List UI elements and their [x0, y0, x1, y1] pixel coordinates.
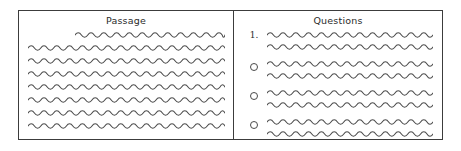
answer-option-line [267, 58, 434, 70]
question-stem-line [267, 29, 434, 41]
answer-option-marker[interactable] [241, 116, 267, 129]
answer-option-lines [267, 116, 434, 140]
passage-panel: Passage [19, 11, 234, 139]
answer-option-line [267, 116, 434, 128]
passage-panel-title: Passage [19, 11, 233, 27]
questions-panel-title: Questions [234, 11, 442, 27]
radio-circle-icon[interactable] [250, 121, 258, 129]
answer-option-line [267, 87, 434, 99]
answer-option-lines [267, 58, 434, 82]
answer-option[interactable] [241, 58, 434, 82]
passage-line [28, 55, 224, 68]
answer-option[interactable] [241, 87, 434, 111]
passage-line [28, 107, 224, 120]
passage-line [75, 29, 224, 42]
question-stem: 1. [241, 29, 434, 53]
question-stem-lines [267, 29, 434, 53]
answer-option-line [267, 128, 434, 140]
answer-option-lines [267, 87, 434, 111]
question-number-label: 1. [250, 30, 259, 41]
radio-circle-icon[interactable] [250, 92, 258, 100]
question-stem-line [267, 41, 434, 53]
answer-option-marker[interactable] [241, 58, 267, 71]
radio-circle-icon[interactable] [250, 63, 258, 71]
passage-line [28, 94, 224, 107]
answer-option[interactable] [241, 116, 434, 140]
questions-body: 1. [234, 29, 442, 135]
passage-line [28, 68, 224, 81]
answer-option-line [267, 70, 434, 82]
answer-options-list [241, 58, 434, 140]
passage-text-lines [19, 29, 233, 135]
passage-line [28, 42, 224, 55]
passage-line [28, 120, 224, 133]
answer-option-line [267, 99, 434, 111]
question-number-marker: 1. [241, 29, 267, 41]
answer-option-marker[interactable] [241, 87, 267, 100]
passage-line [28, 81, 224, 94]
questions-panel: Questions 1. [234, 11, 442, 139]
passage-questions-figure: Passage Questions 1. [18, 10, 443, 140]
